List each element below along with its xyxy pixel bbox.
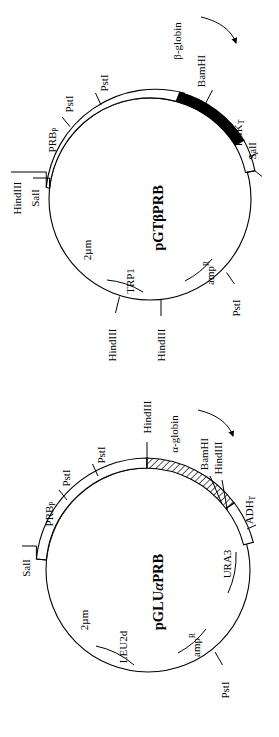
label-salI-right: SalI [246, 142, 258, 160]
plasmid-map-pgtbetaprb: HindIII SalI PRBP PstI PstI BamHI β-glob… [0, 0, 279, 370]
figure-canvas: HindIII SalI PRBP PstI PstI BamHI β-glob… [0, 0, 279, 737]
plasmid-name-part-1: pGLU [150, 590, 166, 630]
tick-bamHI [205, 90, 213, 105]
label-prb-subscript: P [51, 128, 60, 132]
label-pstI-lower-right: PstI [230, 299, 242, 316]
tick-hindIII-bottom-1 [116, 297, 120, 314]
label-2um-origin: 2µm [78, 609, 90, 630]
label-hindIII-top: HindIII [141, 400, 153, 433]
label-prb-main: PRB [46, 132, 58, 153]
label-amp-resistance: ampR [202, 261, 216, 285]
label-pgk-subscript: T [237, 119, 246, 124]
label-beta-globin: β-globin [171, 22, 183, 60]
label-2um-origin: 2µm [81, 239, 93, 260]
label-amp-main: amp [190, 638, 202, 657]
plasmid-name-part-1: pGT [150, 221, 166, 250]
label-prb-subscript: P [48, 502, 57, 506]
label-group-panel1: HindIII SalI PRBP PstI PstI BamHI β-glob… [11, 22, 258, 362]
label-amp-superscript: R [188, 633, 197, 638]
tick-pstI-upper-left-1 [62, 117, 70, 127]
tick-pstI-lower-right [227, 273, 235, 285]
plasmid-name-part-3: PRB [150, 553, 166, 582]
tick-pstI-bottom-right [215, 652, 223, 665]
transcription-arrow-alpha-globin [198, 410, 233, 436]
label-prb-main: PRB [43, 506, 55, 527]
label-salI-upper-left: SalI [29, 189, 41, 207]
label-amp-superscript: R [202, 261, 211, 266]
plasmid-map-pglualphaprb: SalI PRBP PstI PstI HindIII α-globin Bam… [0, 370, 279, 737]
label-hindIII-upper-left: HindIII [11, 181, 23, 214]
label-pstI-upper-left-1: PstI [60, 469, 72, 486]
label-pstI-upper-left-2: PstI [98, 74, 110, 91]
label-pstI-bottom-right: PstI [219, 681, 231, 698]
label-adh-main: ADH [243, 500, 255, 524]
label-adh-subscript: T [248, 495, 257, 500]
plasmid-name-part-3: PRB [150, 185, 166, 214]
plasmid-name-pglualphaprb: pGLUαPRB [150, 553, 166, 630]
label-group-panel2: SalI PRBP PstI PstI HindIII α-globin Bam… [20, 400, 257, 698]
label-leu2d: LEU2d [117, 630, 129, 663]
label-bamHI-right: BamHI [198, 437, 210, 470]
label-alpha-globin: α-globin [168, 415, 180, 453]
label-bamHI: BamHI [195, 54, 207, 87]
label-salI-left: SalI [20, 559, 32, 577]
label-adh-terminator: ADHT [243, 495, 257, 524]
label-pgk-main: PGK [232, 124, 244, 146]
tick-pstI-upper-left-2 [96, 93, 102, 105]
label-ura3: URA3 [221, 549, 233, 578]
label-hindIII-right: HindIII [212, 441, 224, 474]
label-pstI-upper-left-2: PstI [95, 446, 107, 463]
transcription-arrow-beta-globin [201, 17, 236, 43]
label-hindIII-bottom-2: HindIII [155, 328, 167, 361]
label-amp-main: amp [204, 266, 216, 285]
label-trp1: TRP1 [124, 268, 136, 294]
label-hindIII-bottom-1: HindIII [106, 328, 118, 361]
plasmid-name-pgtbetaprb: pGTβPRB [150, 185, 166, 251]
label-pstI-upper-left-1: PstI [63, 95, 75, 112]
